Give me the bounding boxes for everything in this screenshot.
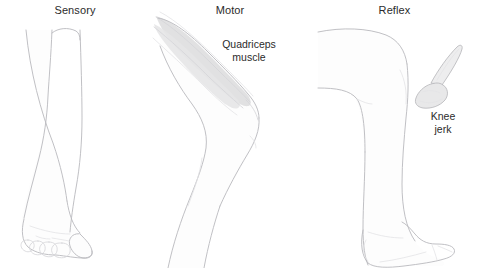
label-knee-jerk: Knee jerk [418, 110, 468, 135]
label-quadriceps-muscle: Quadriceps muscle [206, 38, 292, 63]
sensory-leg-illustration [0, 0, 150, 268]
panel-sensory: Sensory [0, 0, 150, 268]
reflex-hammer-icon [415, 45, 462, 108]
neuro-exam-figure: Sensory [0, 0, 479, 268]
